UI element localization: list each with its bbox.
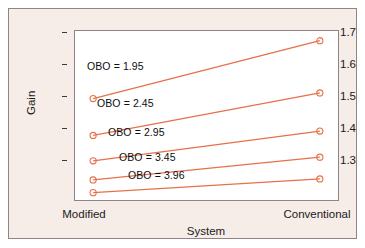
y-tick-mark-1.6 [62, 64, 67, 65]
series-label-obo-2-45: OBO = 2.45 [97, 97, 154, 109]
series-label-obo-3-45: OBO = 3.45 [119, 151, 176, 163]
y-tick-mark-1.3 [62, 160, 67, 161]
interaction-plot-figure: 1.7 1.6 1.5 1.4 1.3 Gain Modified Conven… [0, 0, 365, 248]
x-tick-label-modified: Modified [62, 208, 105, 220]
series-label-obo-2-95: OBO = 2.95 [108, 126, 165, 138]
x-axis-title: System [187, 225, 225, 237]
plot-area: OBO = 1.95 OBO = 2.45 OBO = 2.95 OBO = 3… [74, 30, 339, 201]
y-tick-mark-1.7 [62, 32, 67, 33]
y-axis-title: Gain [25, 91, 37, 115]
chart-panel: 1.7 1.6 1.5 1.4 1.3 Gain Modified Conven… [8, 8, 357, 239]
series-label-obo-1-95: OBO = 1.95 [87, 60, 144, 72]
y-tick-mark-1.5 [62, 96, 67, 97]
series-group [90, 176, 323, 196]
y-tick-mark-1.4 [62, 128, 67, 129]
series-canvas [75, 31, 338, 200]
x-tick-label-conventional: Conventional [283, 208, 350, 220]
series-label-obo-3-96: OBO = 3.96 [128, 169, 185, 181]
